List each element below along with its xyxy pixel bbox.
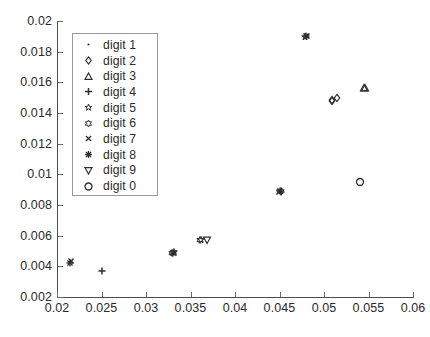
y-tick-label: 0.014	[20, 106, 52, 120]
x-tick-label: 0.025	[86, 301, 118, 315]
legend-item-label: digit 2	[103, 54, 136, 68]
y-tick-label: 0.012	[20, 137, 52, 151]
legend-item-digit-5[interactable]: digit 5	[73, 100, 157, 116]
y-tick	[58, 297, 63, 298]
legend-item-digit-7[interactable]: digit 7	[73, 131, 157, 147]
legend-item-digit-1[interactable]: digit 1	[73, 37, 157, 53]
legend-item-digit-4[interactable]: digit 4	[73, 84, 157, 100]
legend-item-digit-8[interactable]: digit 8	[73, 147, 157, 163]
legend-item-label: digit 9	[103, 163, 136, 177]
cross-marker-icon	[73, 134, 103, 143]
y-tick-label: 0.016	[20, 75, 52, 89]
x-tick-label: 0.05	[312, 301, 337, 315]
legend-item-label: digit 3	[103, 69, 136, 83]
pentagram-marker-icon	[73, 103, 103, 112]
legend-item-label: digit 4	[103, 85, 136, 99]
x-tick-label: 0.03	[134, 301, 159, 315]
x-tick-label: 0.045	[264, 301, 296, 315]
legend-item-digit-9[interactable]: digit 9	[73, 163, 157, 179]
y-tick-label: 0.006	[20, 229, 52, 243]
triangle-up-marker-icon	[73, 72, 103, 81]
x-tick-label: 0.035	[175, 301, 207, 315]
legend-item-label: digit 7	[103, 132, 136, 146]
y-tick-label: 0.008	[20, 198, 52, 212]
y-tick-label: 0.018	[20, 45, 52, 59]
legend-item-digit-3[interactable]: digit 3	[73, 68, 157, 84]
legend-item-label: digit 6	[103, 116, 136, 130]
x-axis-line	[57, 297, 414, 298]
diamond-marker-icon	[73, 56, 103, 65]
asterisk-marker-icon	[73, 150, 103, 159]
x-tick-label: 0.055	[353, 301, 385, 315]
y-tick-label: 0.004	[20, 259, 52, 273]
point-marker-icon	[73, 40, 103, 49]
legend-item-label: digit 8	[103, 148, 136, 162]
triangle-down-marker-icon	[73, 166, 103, 175]
legend-item-label: digit 1	[103, 38, 136, 52]
x-tick-label: 0.04	[223, 301, 248, 315]
legend-item-digit-0[interactable]: digit 0	[73, 178, 157, 194]
legend: digit 1digit 2digit 3digit 4digit 5digit…	[72, 33, 158, 196]
plus-marker-icon	[73, 87, 103, 96]
circle-marker-icon	[73, 182, 103, 191]
scatter-plot-figure: 0.020.0250.030.0350.040.0450.050.0550.06…	[0, 0, 430, 337]
legend-item-digit-2[interactable]: digit 2	[73, 53, 157, 69]
legend-item-digit-6[interactable]: digit 6	[73, 115, 157, 131]
legend-item-label: digit 5	[103, 101, 136, 115]
y-tick-label: 0.02	[27, 14, 52, 28]
x-tick-label: 0.06	[401, 301, 426, 315]
y-tick-label: 0.01	[27, 167, 52, 181]
x-tick	[413, 292, 414, 297]
legend-item-label: digit 0	[103, 179, 136, 193]
y-tick-label: 0.002	[20, 290, 52, 304]
hexagram-marker-icon	[73, 119, 103, 128]
